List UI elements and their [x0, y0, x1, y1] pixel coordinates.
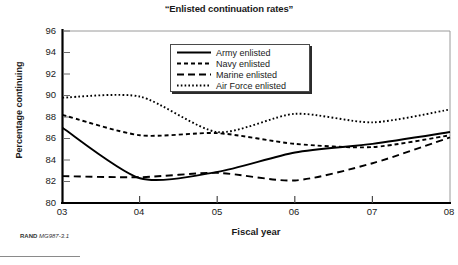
y-tick-marks — [63, 31, 70, 182]
legend-label-navy: Navy enlisted — [213, 59, 270, 69]
series-line-army-enlisted — [63, 128, 451, 180]
legend-label-marine: Marine enlisted — [213, 70, 277, 80]
legend-item-navy: Navy enlisted — [175, 58, 306, 69]
legend-swatch-dotted-icon — [175, 80, 213, 91]
legend-item-airforce: Air Force enlisted — [175, 80, 306, 91]
legend-label-army: Army enlisted — [213, 48, 271, 58]
plot-canvas — [0, 0, 458, 265]
chart-figure: “Enlisted continuation rates” Percentage… — [0, 0, 458, 265]
source-note: RAND MG987-3.1 — [20, 233, 69, 239]
legend-item-marine: Marine enlisted — [175, 69, 306, 80]
chart-legend: Army enlisted Navy enlisted Marine enlis… — [170, 44, 310, 92]
series-line-marine-enlisted — [63, 137, 451, 180]
source-note-bold: RAND — [20, 233, 37, 239]
series-line-air-force-enlisted — [63, 95, 451, 132]
legend-swatch-solid-icon — [175, 47, 213, 58]
legend-swatch-fine-dashed-icon — [175, 58, 213, 69]
legend-item-army: Army enlisted — [175, 47, 306, 58]
footer-rule — [0, 256, 80, 257]
legend-swatch-long-dashed-icon — [175, 69, 213, 80]
legend-label-airforce: Air Force enlisted — [213, 81, 286, 91]
source-note-italic: MG987-3.1 — [39, 233, 69, 239]
series-layer — [63, 95, 451, 181]
